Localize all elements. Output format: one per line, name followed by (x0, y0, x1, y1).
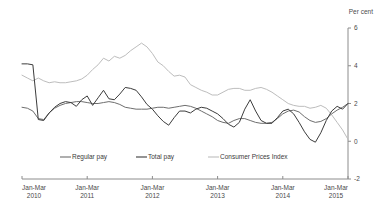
x-tick-label-period: Jan-Mar (206, 184, 231, 191)
x-tick-label-period: Jan-Mar (75, 184, 100, 191)
x-tick-label-year: 2010 (27, 192, 42, 199)
y-tick-label: 4 (354, 62, 358, 69)
x-tick-label-year: 2012 (145, 192, 160, 199)
legend-label-total-pay: Total pay (148, 153, 175, 161)
series-line-regular-pay (22, 102, 348, 124)
y-tick-label: 2 (354, 100, 358, 107)
x-tick-label-year: 2011 (80, 192, 94, 199)
x-tick-label-period: Jan-Mar (22, 184, 47, 191)
x-tick-label-period: Jan-Mar (271, 184, 296, 191)
series-line-consumer-prices-index (22, 43, 348, 139)
chart-legend: Regular payTotal payConsumer Prices Inde… (60, 153, 288, 161)
legend-label-consumer-prices-index: Consumer Prices Index (220, 153, 288, 160)
y-tick-label: -2 (354, 175, 360, 182)
x-tick-label-period: Jan-Mar (140, 184, 165, 191)
x-tick-label-year: 2015 (329, 192, 344, 199)
x-axis: Jan-Mar2010Jan-Mar2011Jan-Mar2012Jan-Mar… (22, 176, 349, 199)
y-tick-label: 6 (354, 24, 358, 31)
x-tick-label-year: 2013 (210, 192, 225, 199)
y-axis: -20246 (348, 24, 360, 182)
x-tick-label-year: 2014 (276, 192, 291, 199)
data-series-group (22, 43, 348, 142)
legend-label-regular-pay: Regular pay (72, 153, 108, 161)
series-line-total-pay (22, 64, 348, 142)
y-tick-label: 0 (354, 138, 358, 145)
chart-container: Per cent -20246 Jan-Mar2010Jan-Mar2011Ja… (0, 0, 377, 212)
chart-plot-area: -20246 Jan-Mar2010Jan-Mar2011Jan-Mar2012… (0, 0, 377, 212)
x-tick-label-period: Jan-Mar (324, 184, 349, 191)
